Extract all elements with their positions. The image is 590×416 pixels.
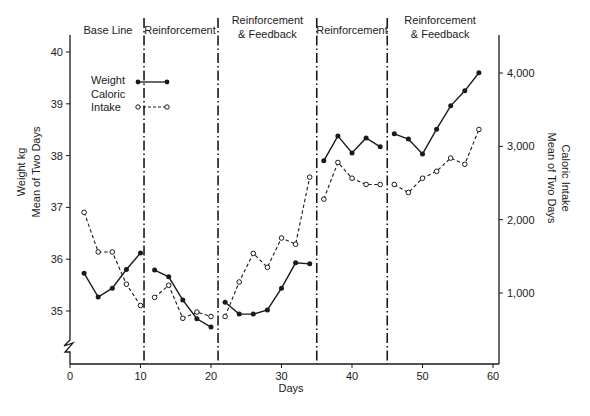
weight-point-marker-icon — [392, 131, 397, 136]
weight-point-marker-icon — [251, 312, 256, 317]
legend-caloric-label-1: Caloric — [91, 88, 126, 100]
weight-point-marker-icon — [180, 298, 185, 303]
chart-figure: 01020304050603536373839401,0002,0003,000… — [0, 0, 590, 416]
weight-point-marker-icon — [293, 260, 298, 265]
caloric-point-marker-icon — [237, 280, 242, 285]
weight-point-marker-icon — [350, 151, 355, 156]
weight-point-marker-icon — [152, 268, 157, 273]
x-axis-title: Days — [278, 382, 304, 394]
y-tick-label: 36 — [51, 253, 63, 265]
y2-tick-label: 1,000 — [507, 287, 535, 299]
caloric-point-marker-icon — [138, 303, 143, 308]
caloric-point-marker-icon — [110, 250, 115, 255]
caloric-point-marker-icon — [378, 182, 383, 187]
y2-tick-label: 2,000 — [507, 214, 535, 226]
y-tick-label: 35 — [51, 305, 63, 317]
caloric-point-marker-icon — [124, 282, 129, 287]
weight-point-marker-icon — [138, 250, 143, 255]
x-tick-label: 10 — [134, 370, 146, 382]
caloric-point-marker-icon — [463, 162, 468, 167]
x-tick-label: 20 — [205, 370, 217, 382]
y-tick-label: 40 — [51, 46, 63, 58]
caloric-point-marker-icon — [209, 314, 214, 319]
caloric-point-marker-icon — [307, 175, 312, 180]
data-series — [82, 70, 482, 329]
phase-label: Reinforcement — [404, 14, 476, 26]
weight-point-marker-icon — [434, 127, 439, 132]
caloric-point-marker-icon — [420, 176, 425, 181]
y-axis-title-line1: Weight kg — [15, 148, 27, 197]
weight-point-marker-icon — [335, 133, 340, 138]
legend: Weight Caloric Intake — [91, 74, 169, 113]
phase-label: & Feedback — [238, 28, 297, 40]
caloric-point-marker-icon — [434, 169, 439, 174]
weight-line-segment — [394, 73, 479, 154]
legend-weight-marker-icon — [165, 80, 170, 85]
x-tick-label: 50 — [416, 370, 428, 382]
x-tick-label: 60 — [487, 370, 499, 382]
weight-point-marker-icon — [406, 137, 411, 142]
caloric-point-marker-icon — [364, 182, 369, 187]
caloric-point-marker-icon — [448, 156, 453, 161]
caloric-point-marker-icon — [350, 176, 355, 181]
caloric-point-marker-icon — [181, 316, 186, 321]
weight-point-marker-icon — [194, 316, 199, 321]
weight-point-marker-icon — [420, 152, 425, 157]
weight-point-marker-icon — [307, 261, 312, 266]
phase-label: Reinforcement — [316, 24, 388, 36]
weight-point-marker-icon — [364, 135, 369, 140]
weight-point-marker-icon — [462, 88, 467, 93]
caloric-point-marker-icon — [392, 182, 397, 187]
caloric-point-marker-icon — [279, 236, 284, 241]
x-tick-label: 30 — [275, 370, 287, 382]
weight-point-marker-icon — [166, 274, 171, 279]
caloric-point-marker-icon — [406, 190, 411, 195]
x-tick-label: 40 — [346, 370, 358, 382]
caloric-point-marker-icon — [82, 210, 87, 215]
weight-point-marker-icon — [124, 267, 129, 272]
weight-point-marker-icon — [96, 295, 101, 300]
weight-point-marker-icon — [378, 144, 383, 149]
y2-axis-title-line2: Mean of Two Days — [546, 133, 558, 224]
weight-point-marker-icon — [476, 70, 481, 75]
y-axis-left-line — [64, 35, 73, 364]
phase-dividers: Base LineReinforcementReinforcement& Fee… — [84, 14, 476, 364]
phase-label: Reinforcement — [232, 14, 304, 26]
y-tick-label: 37 — [51, 201, 63, 213]
caloric-point-marker-icon — [166, 283, 171, 288]
caloric-point-marker-icon — [322, 197, 327, 202]
weight-line-segment — [225, 263, 310, 314]
caloric-point-marker-icon — [152, 295, 157, 300]
caloric-point-marker-icon — [195, 310, 200, 315]
weight-point-marker-icon — [321, 158, 326, 163]
legend-caloric-marker-icon — [136, 105, 140, 109]
y2-tick-label: 4,000 — [507, 67, 535, 79]
weight-point-marker-icon — [209, 325, 214, 330]
y2-axis-title-line1: Caloric Intake — [560, 144, 572, 211]
legend-weight-label: Weight — [91, 74, 125, 86]
weight-point-marker-icon — [82, 271, 87, 276]
weight-point-marker-icon — [110, 286, 115, 291]
weight-point-marker-icon — [265, 307, 270, 312]
phase-label: Reinforcement — [144, 24, 216, 36]
y-axis-title-line2: Mean of Two Days — [30, 126, 42, 217]
weight-point-marker-icon — [237, 312, 242, 317]
weight-point-marker-icon — [279, 286, 284, 291]
caloric-point-marker-icon — [336, 160, 341, 165]
caloric-point-marker-icon — [223, 314, 228, 319]
caloric-point-marker-icon — [251, 251, 256, 256]
y-tick-label: 38 — [51, 150, 63, 162]
y2-tick-label: 3,000 — [507, 140, 535, 152]
chart-canvas: 01020304050603536373839401,0002,0003,000… — [0, 0, 590, 416]
y-tick-label: 39 — [51, 98, 63, 110]
x-tick-label: 0 — [67, 370, 73, 382]
legend-weight-marker-icon — [136, 80, 141, 85]
legend-caloric-label-2: Intake — [91, 101, 121, 113]
weight-line-segment — [324, 136, 380, 161]
phase-label: Base Line — [84, 24, 133, 36]
legend-caloric-marker-icon — [165, 105, 169, 109]
phase-label: & Feedback — [411, 28, 470, 40]
caloric-point-marker-icon — [477, 127, 482, 132]
caloric-line-segment — [84, 212, 140, 305]
caloric-line-segment — [225, 177, 310, 316]
